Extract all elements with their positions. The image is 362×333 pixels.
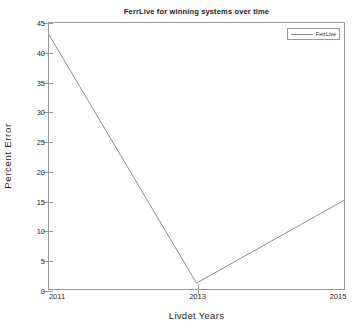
y-tick-label: 25 — [37, 138, 45, 147]
y-tick-label: 45 — [37, 19, 45, 28]
x-axis-title: Livdet Years — [48, 310, 345, 321]
chart-title: FerrLive for winning systems over time — [48, 7, 345, 16]
x-tick-label: 2013 — [189, 292, 206, 301]
y-tick-label: 35 — [37, 78, 45, 87]
y-tick-mark-inner — [49, 261, 53, 262]
y-tick-label: 5 — [41, 257, 45, 266]
y-tick-mark-inner — [49, 231, 53, 232]
y-axis-title: Percent Error — [2, 123, 13, 189]
y-tick-label: 30 — [37, 108, 45, 117]
y-tick-label: 15 — [37, 197, 45, 206]
y-tick-mark-inner — [49, 172, 53, 173]
legend-label-ferrlive: FerrLive — [316, 31, 336, 37]
y-tick-mark-inner — [49, 202, 53, 203]
plot-inner: 051015202530354045 201120132015 FerrLive — [49, 23, 344, 289]
legend-line-swatch — [291, 34, 313, 35]
y-tick-label: 0 — [41, 287, 45, 296]
x-tick-label: 2011 — [49, 292, 65, 301]
chart-figure: FerrLive for winning systems over time P… — [0, 0, 362, 333]
y-tick-mark-inner — [49, 112, 53, 113]
x-tick-label: 2015 — [330, 292, 347, 301]
plot-area: 051015202530354045 201120132015 FerrLive — [48, 22, 345, 290]
series-line-ferrlive — [49, 35, 344, 283]
y-tick-label: 20 — [37, 167, 45, 176]
y-tick-label: 10 — [37, 227, 45, 236]
chart-legend: FerrLive — [287, 28, 340, 40]
x-tick-mark-inner — [198, 285, 199, 289]
y-tick-mark-inner — [49, 53, 53, 54]
data-line-svg — [49, 23, 344, 289]
y-tick-mark-inner — [49, 83, 53, 84]
y-tick-mark-inner — [49, 23, 53, 24]
y-tick-mark-inner — [49, 142, 53, 143]
y-tick-label: 40 — [37, 48, 45, 57]
